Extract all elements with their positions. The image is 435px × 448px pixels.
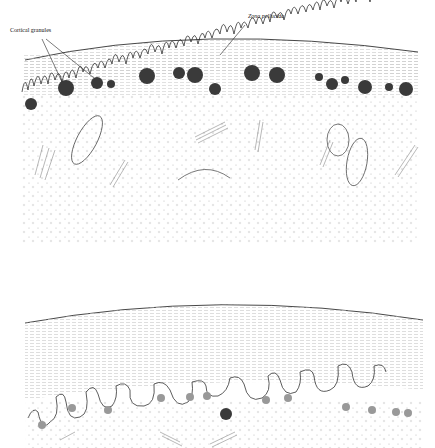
oocyte-illustration [0, 0, 435, 448]
bottom-panel [25, 305, 423, 448]
cortical-granule-remaining [220, 408, 232, 420]
top-panel [22, 0, 418, 245]
